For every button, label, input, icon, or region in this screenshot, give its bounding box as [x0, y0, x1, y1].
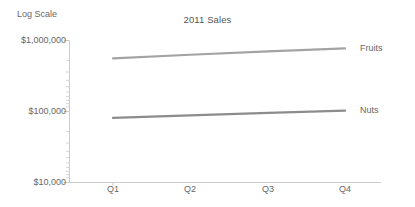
- x-tick-label-q3: Q3: [262, 184, 274, 194]
- y-tick-label-top: $1,000,000: [21, 35, 66, 45]
- x-tick-label-q2: Q2: [184, 184, 196, 194]
- plot-area: [0, 0, 415, 207]
- series-line-nuts: [113, 111, 345, 118]
- y-tick-label-bottom: $10,000: [33, 177, 66, 187]
- y-minor-ticks-upper-decade: [66, 60, 70, 106]
- x-tick-label-q4: Q4: [339, 184, 351, 194]
- chart-container: Log Scale 2011 Sales: [0, 0, 415, 207]
- series-label-nuts: Nuts: [360, 105, 379, 115]
- series-line-fruits: [113, 48, 345, 58]
- series-label-fruits: Fruits: [360, 43, 383, 53]
- y-tick-label-mid: $100,000: [28, 106, 66, 116]
- y-minor-ticks-lower-decade: [66, 131, 70, 177]
- x-tick-label-q1: Q1: [107, 184, 119, 194]
